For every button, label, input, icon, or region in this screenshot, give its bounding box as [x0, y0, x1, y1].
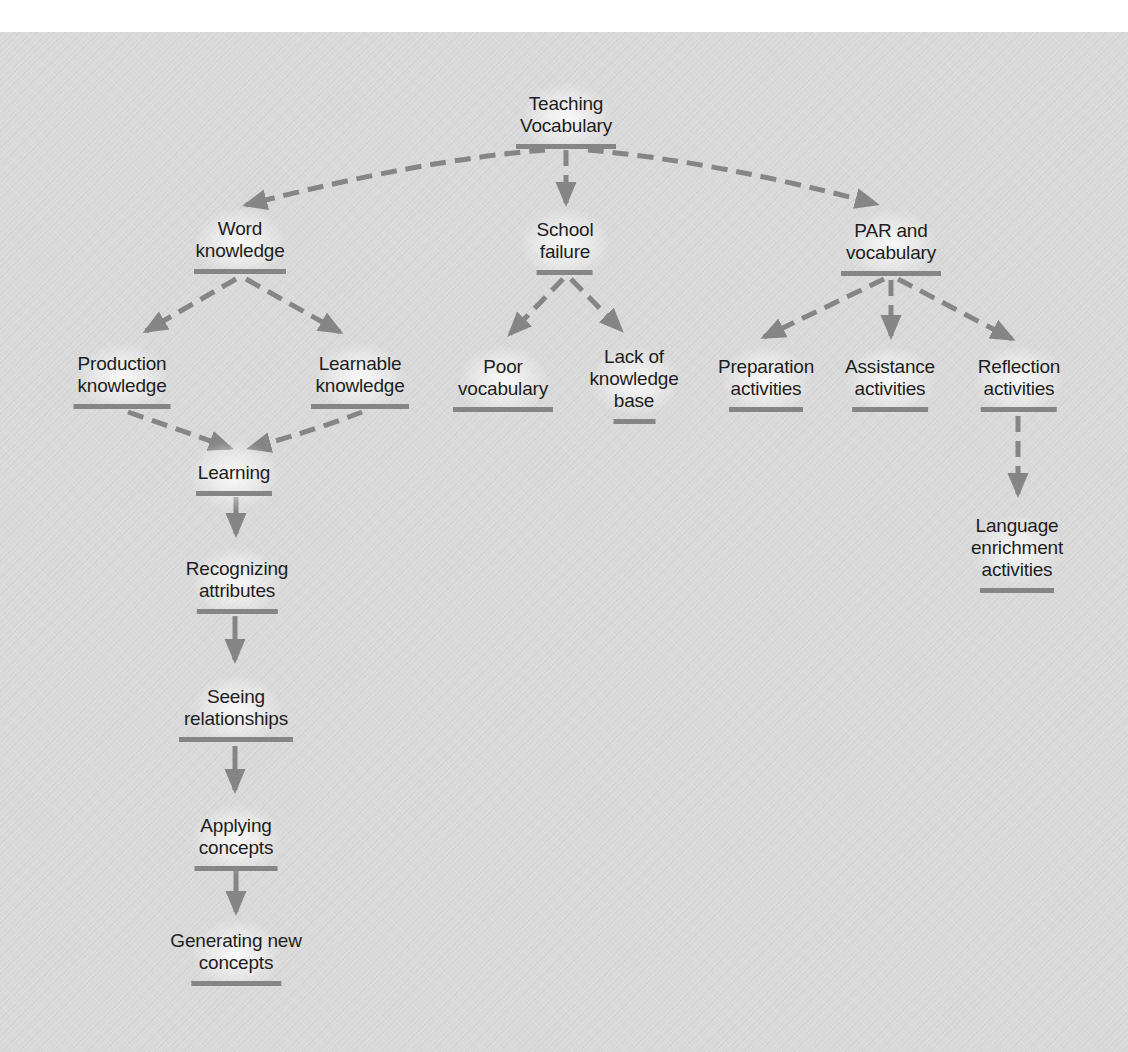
arrow-par-to-preparation [764, 279, 884, 337]
node-underline [537, 270, 593, 275]
node-label: Word knowledge [195, 218, 284, 262]
arrow-school-to-lack-knowledge [571, 279, 621, 330]
node-label: Generating new concepts [170, 930, 301, 974]
node-underline [516, 144, 616, 149]
node-poor-vocabulary: Poor vocabulary [453, 356, 553, 412]
arrow-par-to-reflection [898, 279, 1012, 339]
node-reflection-activities: Reflection activities [978, 356, 1061, 412]
node-recognizing-attributes: Recognizing attributes [186, 558, 288, 614]
node-label: Assistance activities [845, 356, 935, 400]
node-underline [453, 407, 553, 412]
arrow-production-to-learning [128, 412, 230, 448]
node-preparation-activities: Preparation activities [718, 356, 814, 412]
node-label: Reflection activities [978, 356, 1061, 400]
node-underline [194, 269, 286, 274]
node-underline [981, 407, 1057, 412]
node-label: Seeing relationships [184, 686, 288, 730]
node-underline [841, 271, 941, 276]
node-teaching-vocabulary: Teaching Vocabulary [516, 93, 616, 149]
node-underline [195, 866, 278, 871]
node-production-knowledge: Production knowledge [74, 353, 171, 409]
node-label: Learnable knowledge [315, 353, 404, 397]
node-underline [196, 491, 272, 496]
arrow-learnable-to-learning [250, 412, 362, 448]
node-underline [191, 981, 281, 986]
node-label: PAR and vocabulary [846, 220, 936, 264]
node-par-vocabulary: PAR and vocabulary [841, 220, 941, 276]
node-underline [74, 404, 171, 409]
node-underline [729, 407, 803, 412]
node-label: Learning [198, 462, 270, 484]
connector-layer [0, 0, 1128, 1052]
node-language-enrichment-activities: Language enrichment activities [971, 515, 1063, 593]
node-label: Lack of knowledge base [589, 346, 678, 412]
arrow-word-to-production [146, 279, 236, 331]
node-label: Applying concepts [199, 815, 273, 859]
node-underline [980, 588, 1054, 593]
node-underline [197, 609, 278, 614]
node-underline [179, 737, 293, 742]
arrow-root-to-par [588, 150, 876, 204]
node-assistance-activities: Assistance activities [845, 356, 935, 412]
node-word-knowledge: Word knowledge [194, 218, 286, 274]
node-label: School failure [537, 219, 594, 263]
node-seeing-relationships: Seeing relationships [179, 686, 293, 742]
node-applying-concepts: Applying concepts [195, 815, 278, 871]
node-underline [613, 419, 655, 424]
node-label: Language enrichment activities [971, 515, 1063, 581]
node-label: Preparation activities [718, 356, 814, 400]
node-label: Production knowledge [77, 353, 166, 397]
arrow-root-to-word-knowledge [246, 150, 545, 205]
node-underline [852, 407, 928, 412]
arrow-school-to-poor-vocabulary [510, 279, 563, 334]
node-generating-new-concepts: Generating new concepts [170, 930, 301, 986]
node-underline [311, 404, 409, 409]
node-label: Recognizing attributes [186, 558, 288, 602]
node-learnable-knowledge: Learnable knowledge [311, 353, 409, 409]
arrow-word-to-learnable [246, 279, 340, 332]
node-label: Teaching Vocabulary [520, 93, 612, 137]
node-label: Poor vocabulary [458, 356, 548, 400]
node-school-failure: School failure [537, 219, 594, 275]
node-lack-of-knowledge-base: Lack of knowledge base [589, 346, 678, 424]
node-learning: Learning [196, 462, 272, 496]
